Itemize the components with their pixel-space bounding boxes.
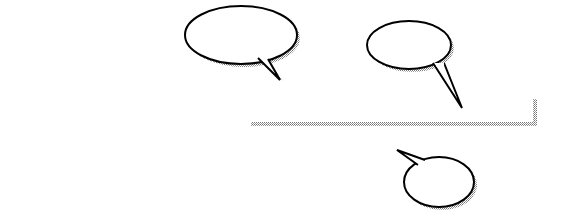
callout-name bbox=[397, 150, 477, 210]
array-shadow bbox=[251, 122, 536, 126]
callout-value bbox=[367, 21, 462, 108]
array-shadow-right bbox=[533, 99, 537, 126]
array-diagram bbox=[0, 0, 566, 219]
callout-subscript bbox=[185, 6, 300, 82]
